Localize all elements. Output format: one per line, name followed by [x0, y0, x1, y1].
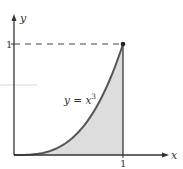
- point-1-1: [121, 42, 126, 47]
- chart: y x 1 1 y = x3: [0, 0, 183, 169]
- y-tick-label-1: 1: [6, 39, 12, 50]
- x-tick-label-1: 1: [120, 158, 126, 169]
- x-axis-label: x: [171, 149, 178, 162]
- curve-label: y = x3: [63, 92, 96, 106]
- y-axis-label: y: [19, 12, 27, 25]
- y-axis-arrow-icon: [12, 14, 17, 21]
- x-axis-arrow-icon: [162, 153, 169, 158]
- curve-label-base: y = x: [63, 94, 91, 106]
- curve-label-exponent: 3: [91, 92, 96, 101]
